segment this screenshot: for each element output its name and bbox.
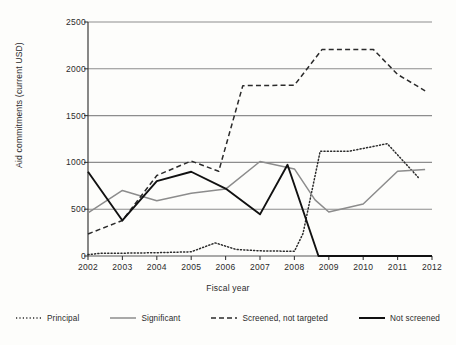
x-tick-label: 2005 (181, 262, 201, 272)
x-tick-label: 2011 (388, 262, 407, 272)
y-tick-label: 2500 (42, 17, 86, 27)
x-tick-label: 2007 (250, 262, 270, 272)
x-tick-label: 2004 (147, 262, 167, 272)
x-tick-label: 2009 (319, 262, 339, 272)
y-tick-label: 2000 (42, 64, 86, 74)
legend-item[interactable]: Not screened (359, 314, 440, 323)
x-tick-label: 2012 (422, 262, 442, 272)
x-tick-label: 2003 (112, 262, 132, 272)
legend-swatch-dotted (16, 314, 42, 322)
legend-label: Significant (141, 314, 180, 323)
legend-label: Principal (47, 314, 79, 323)
chart-canvas: Aid commitments (current USD) 2500200015… (0, 0, 456, 345)
y-tick-label: 1500 (42, 111, 86, 121)
legend-swatch-dashed (211, 314, 237, 322)
series-line (88, 50, 425, 234)
series-line (88, 165, 432, 256)
legend-item[interactable]: Significant (110, 314, 180, 323)
x-tick-label: 2002 (78, 262, 98, 272)
y-tick-label: 1000 (42, 157, 86, 167)
legend-label: Screened, not targeted (242, 314, 328, 323)
x-tick-label: 2010 (353, 262, 373, 272)
y-tick-label: 500 (42, 204, 86, 214)
legend-swatch-solid-black (359, 314, 385, 322)
x-axis-label: Fiscal year (0, 283, 456, 293)
y-axis-label: Aid commitments (current USD) (14, 20, 24, 190)
x-tick-label: 2006 (216, 262, 236, 272)
chart-legend: PrincipalSignificantScreened, not target… (0, 307, 456, 329)
legend-item[interactable]: Screened, not targeted (211, 314, 328, 323)
chart-figure: Aid commitments (current USD) 2500200015… (0, 0, 456, 345)
x-tick-label: 2008 (284, 262, 304, 272)
legend-item[interactable]: Principal (16, 314, 79, 323)
series-line (88, 161, 425, 212)
legend-label: Not screened (390, 314, 440, 323)
y-axis-tick-group: 25002000150010005000 (42, 0, 86, 280)
legend-swatch-solid-gray (110, 314, 136, 322)
y-tick-label: 0 (42, 251, 86, 261)
